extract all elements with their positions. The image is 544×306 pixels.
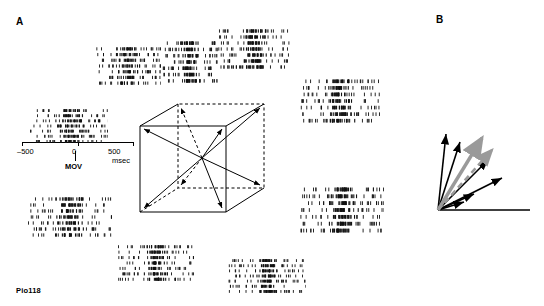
raster-upper-right — [218, 28, 290, 70]
panel-b-label: B — [436, 14, 444, 25]
raster-right-upper — [300, 78, 380, 124]
raster-left-lower — [28, 196, 112, 238]
raster-right-lower — [300, 186, 384, 234]
raster-bottom-left — [118, 244, 194, 282]
axis-tick-left — [22, 142, 23, 146]
time-axis: –500 0 500 msec MOV — [22, 142, 134, 178]
raster-upper-mid — [162, 40, 218, 84]
movement-direction-cube — [126, 96, 316, 236]
axis-tick-label-left: –500 — [17, 147, 34, 156]
mov-label: MOV — [65, 162, 82, 171]
panel-a-label: A — [16, 16, 24, 27]
population-vector-diagram — [430, 120, 535, 235]
axis-tick-label-right: 500 — [108, 147, 121, 156]
raster-bottom-right — [228, 258, 306, 294]
raster-upper-left-front — [95, 46, 161, 86]
cell-id-label: Pio118 — [16, 286, 41, 295]
mov-marker-icon — [75, 151, 76, 161]
raster-left-upper — [30, 108, 108, 144]
